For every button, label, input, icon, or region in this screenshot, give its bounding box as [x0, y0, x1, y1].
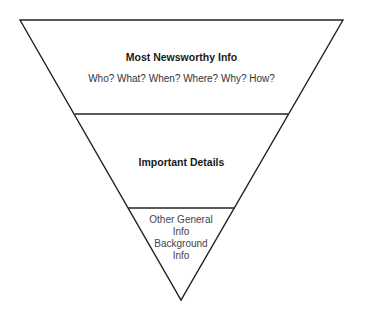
tier-3-line-4: Info: [131, 250, 231, 262]
tier-3-line-2: Info: [131, 226, 231, 238]
tier-3-line-3: Background: [131, 238, 231, 250]
tier-1-subtitle: Who? What? When? Where? Why? How?: [60, 73, 303, 84]
tier-3-line-1: Other General: [131, 214, 231, 226]
tier-1-title: Most Newsworthy Info: [80, 51, 283, 63]
tier-3-text: Other General Info Background Info: [131, 214, 231, 262]
tier-2-title: Important Details: [100, 156, 263, 168]
